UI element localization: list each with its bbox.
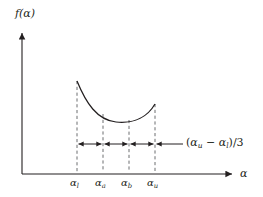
tick-label-alpha-l: αl bbox=[70, 178, 79, 190]
figure-container: f(α) α αl αa αb αu (αu − αl)/3 bbox=[0, 0, 263, 197]
tick-base-alpha-a: α bbox=[95, 177, 102, 188]
tick-label-alpha-a: αa bbox=[95, 178, 106, 190]
x-axis-label-text: α bbox=[240, 167, 247, 180]
tick-label-alpha-u: αu bbox=[147, 178, 158, 190]
annotation-alpha-u: α bbox=[190, 136, 197, 149]
tick-label-alpha-b: αb bbox=[121, 178, 132, 190]
annotation-close-divide: )/3 bbox=[229, 136, 244, 149]
interval-width-annotation: (αu − αl)/3 bbox=[186, 137, 244, 150]
figure-canvas bbox=[0, 0, 263, 197]
objective-function-curve bbox=[77, 81, 155, 122]
annotation-minus: − bbox=[203, 136, 219, 149]
tick-sub-alpha-l: l bbox=[77, 182, 79, 190]
x-axis-label: α bbox=[240, 168, 247, 179]
tick-base-alpha-b: α bbox=[121, 177, 128, 188]
y-axis-label-text: f(α) bbox=[15, 7, 35, 20]
tick-base-alpha-u: α bbox=[147, 177, 154, 188]
y-axis-label: f(α) bbox=[15, 8, 35, 19]
tick-base-alpha-l: α bbox=[70, 177, 77, 188]
tick-sub-alpha-b: b bbox=[128, 182, 132, 190]
tick-sub-alpha-a: a bbox=[102, 182, 106, 190]
tick-sub-alpha-u: u bbox=[154, 182, 158, 190]
